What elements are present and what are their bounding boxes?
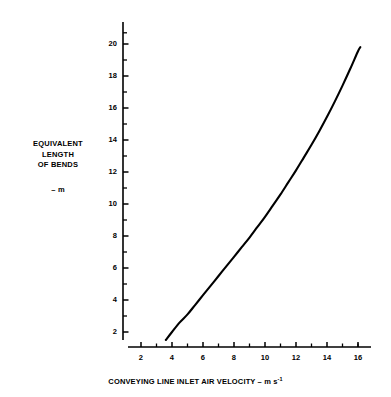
y-tick-label: 4 <box>99 295 117 304</box>
plot-area <box>0 0 391 397</box>
y-tick-label: 10 <box>99 199 117 208</box>
x-axis-title-exponent: -1 <box>278 376 283 382</box>
x-tick-label: 16 <box>349 353 367 362</box>
x-axis-title-text: CONVEYING LINE INLET AIR VELOCITY – m s <box>108 377 277 386</box>
y-tick-label: 2 <box>99 327 117 336</box>
y-tick-label: 18 <box>99 71 117 80</box>
y-axis-ticks <box>123 33 129 332</box>
chart-figure: EQUIVALENT LENGTH OF BENDS – m 246810121… <box>0 0 391 397</box>
y-tick-label: 8 <box>99 231 117 240</box>
x-tick-label: 8 <box>225 353 243 362</box>
x-axis-title: CONVEYING LINE INLET AIR VELOCITY – m s-… <box>0 377 391 386</box>
y-tick-label: 20 <box>99 39 117 48</box>
y-tick-label: 6 <box>99 263 117 272</box>
x-tick-label: 2 <box>132 353 150 362</box>
data-series-curve <box>166 47 361 340</box>
x-tick-label: 12 <box>287 353 305 362</box>
y-tick-label: 14 <box>99 135 117 144</box>
x-tick-label: 14 <box>318 353 336 362</box>
x-tick-label: 6 <box>194 353 212 362</box>
y-tick-label: 12 <box>99 167 117 176</box>
x-tick-label: 4 <box>163 353 181 362</box>
y-tick-label: 16 <box>99 103 117 112</box>
x-tick-label: 10 <box>256 353 274 362</box>
